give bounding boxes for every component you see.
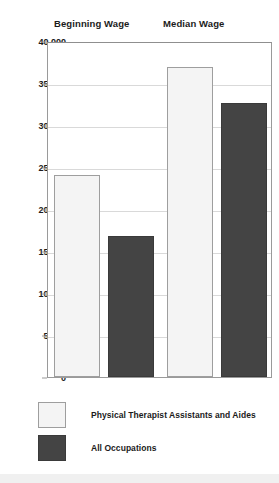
bar-median-wage-series-1 [221, 103, 267, 377]
chart-legend: Physical Therapist Assistants and AidesA… [38, 400, 274, 466]
legend-swatch-light [38, 402, 66, 428]
bar-beginning-wage-series-1 [108, 236, 154, 377]
legend-label: All Occupations [91, 443, 156, 453]
group-header-median-wage: Median Wage [163, 18, 224, 29]
bar-beginning-wage-series-0 [54, 175, 100, 377]
gridline [48, 85, 271, 86]
group-header-beginning-wage: Beginning Wage [54, 18, 129, 29]
legend-swatch-dark [38, 435, 66, 461]
plot-area [47, 42, 272, 378]
legend-item: Physical Therapist Assistants and Aides [38, 400, 274, 430]
legend-label: Physical Therapist Assistants and Aides [91, 410, 256, 420]
legend-item: All Occupations [38, 433, 274, 463]
bar-median-wage-series-0 [167, 67, 213, 377]
chart-page: Beginning Wage Median Wage 05,00010,0001… [0, 0, 279, 483]
bottom-band [0, 474, 279, 483]
